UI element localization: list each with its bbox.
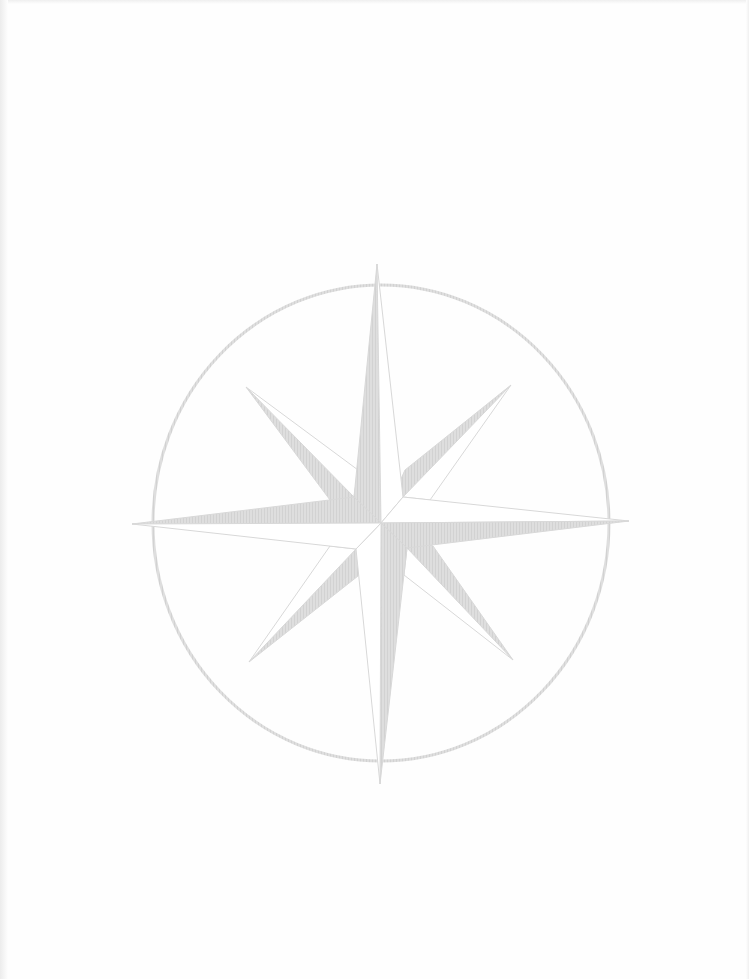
point-s-shaded xyxy=(380,523,407,784)
point-n-light xyxy=(377,264,403,523)
point-s-light xyxy=(356,523,381,784)
point-w-light xyxy=(132,523,381,549)
point-w-shaded xyxy=(132,497,381,524)
compass-rose-icon xyxy=(0,0,749,979)
point-e-light xyxy=(381,497,629,523)
point-nw-light xyxy=(246,387,358,497)
cardinal-points xyxy=(132,264,629,784)
point-ne-light xyxy=(403,385,511,500)
point-se-light xyxy=(404,548,513,660)
point-sw-light xyxy=(249,546,356,662)
point-n-shaded xyxy=(354,264,381,523)
point-e-shaded xyxy=(381,521,629,548)
page-background xyxy=(0,0,749,979)
